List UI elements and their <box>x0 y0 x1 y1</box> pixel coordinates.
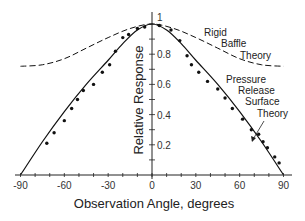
annotation-pressure-release: Pressure Release Surface Theory <box>226 74 288 142</box>
data-point <box>76 98 79 101</box>
data-point <box>63 119 66 122</box>
data-point <box>257 133 260 136</box>
data-point <box>108 63 111 66</box>
arrowhead-icon <box>251 136 256 142</box>
data-point <box>206 80 209 83</box>
y-tick-label: 0.2 <box>157 140 171 151</box>
data-point <box>231 107 234 110</box>
x-tick-label: 0 <box>149 180 155 191</box>
data-point <box>197 71 200 74</box>
data-point <box>82 89 85 92</box>
x-tick-label: 30 <box>190 180 202 191</box>
data-point <box>92 83 95 86</box>
data-point <box>273 155 276 158</box>
x-tick-label: -30 <box>101 180 116 191</box>
y-axis-title: Relative Response <box>131 45 146 154</box>
data-point <box>266 146 269 149</box>
svg-text:Rigid: Rigid <box>204 27 227 38</box>
data-point <box>70 107 73 110</box>
data-point <box>114 49 117 52</box>
svg-text:Release: Release <box>238 85 275 96</box>
svg-text:Theory: Theory <box>257 108 288 119</box>
x-tick-label: -60 <box>57 180 72 191</box>
x-tick-label: 60 <box>234 180 246 191</box>
data-point <box>169 28 172 31</box>
data-point <box>178 39 181 42</box>
data-point <box>143 25 146 28</box>
y-tick-label: 0.4 <box>157 110 171 121</box>
data-point <box>52 131 55 134</box>
svg-text:Surface: Surface <box>245 96 280 107</box>
data-point <box>250 128 253 131</box>
chart: -90-60-3003060900.20.40.60.81 Observatio… <box>0 0 305 221</box>
data-point <box>158 24 161 27</box>
x-axis-title: Observation Angle, degrees <box>74 196 235 211</box>
data-point <box>45 142 48 145</box>
data-point <box>190 63 193 66</box>
data-point <box>136 27 139 30</box>
annotation-rigid-baffle: Rigid Baffle Theory <box>204 27 271 61</box>
data-point <box>185 54 188 57</box>
svg-text:Theory: Theory <box>240 50 271 61</box>
svg-text:Pressure: Pressure <box>226 74 266 85</box>
data-point <box>223 96 226 99</box>
data-point <box>241 117 244 120</box>
data-point <box>277 161 280 164</box>
x-tick-label: -90 <box>13 180 28 191</box>
data-point <box>127 33 130 36</box>
svg-text:Baffle: Baffle <box>221 38 247 49</box>
data-point <box>101 71 104 74</box>
y-tick-label: 0.8 <box>157 49 171 60</box>
x-tick-label: 90 <box>278 180 290 191</box>
data-point <box>261 140 264 143</box>
y-tick-label: 1 <box>157 12 163 23</box>
data-point <box>121 36 124 39</box>
data-point <box>216 87 219 90</box>
y-tick-label: 0.6 <box>157 79 171 90</box>
